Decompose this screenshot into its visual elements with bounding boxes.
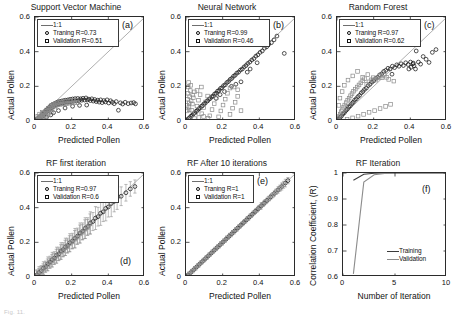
y-tick-label: 0.2 — [8, 237, 30, 246]
y-tick-label: 0.6 — [316, 272, 338, 281]
legend-label: Validation R=1 — [204, 193, 245, 201]
y-tick-label: 0 — [159, 272, 181, 281]
x-axis-label: Predicted Pollen — [336, 135, 446, 145]
legend-label: Traning R=0.97 — [355, 29, 398, 37]
line-marker-icon — [386, 259, 399, 260]
x-axis-label: Number of Iteration — [336, 291, 452, 301]
panel-letter: (b) — [273, 20, 284, 30]
legend-entry: 1:1 — [191, 21, 267, 29]
square-marker-icon — [342, 39, 355, 43]
circle-marker-icon — [40, 31, 53, 35]
one-to-one-line-icon — [191, 25, 204, 26]
y-tick-label: 0.2 — [310, 81, 332, 90]
x-axis-label: Predicted Pollen — [185, 291, 295, 301]
circle-marker-icon — [191, 31, 204, 35]
square-marker-icon — [40, 195, 53, 199]
panel-title: RF After 10 iterations — [151, 158, 303, 168]
x-tick-label: 0.2 — [210, 278, 234, 287]
x-tick-label: 0.4 — [246, 278, 270, 287]
x-tick-label: 0.2 — [59, 278, 83, 287]
panel-title: RF Iteration — [302, 158, 454, 168]
legend-label: 1:1 — [204, 177, 213, 185]
legend-label: Traning R=0.97 — [53, 185, 96, 193]
y-tick-label: 0.9 — [316, 194, 338, 203]
legend-entry: Traning R=1 — [191, 185, 251, 193]
y-tick-label: 0 — [8, 272, 30, 281]
legend-label: Validation R=0.51 — [53, 37, 102, 45]
line-marker-icon — [386, 251, 399, 252]
legend-entry: 1:1 — [342, 21, 418, 29]
y-axis-label: Actual Pollen — [157, 226, 167, 276]
panel-d: RF first iteration Actual Pollen (d) 1:1… — [0, 158, 152, 308]
y-tick-label: 0.6 — [159, 12, 181, 21]
y-tick-label: 0.6 — [310, 12, 332, 21]
x-tick-label: 0.2 — [210, 122, 234, 131]
figure-root: Support Vector Machine Actual Pollen (a)… — [0, 0, 454, 320]
legend-label: Validation — [399, 255, 426, 263]
y-tick-label: 1 — [316, 168, 338, 177]
y-axis-label: Actual Pollen — [6, 226, 16, 276]
legend-c: 1:1Traning R=0.97Validation R=0.62 — [339, 19, 421, 47]
legend-label: Validation R=0.6 — [53, 193, 99, 201]
training-series — [186, 34, 286, 120]
x-tick-label: 0.4 — [397, 122, 421, 131]
panel-f: RF Iteration Correlation Coefficient, (R… — [302, 158, 454, 308]
y-tick-label: 0.8 — [316, 220, 338, 229]
one-to-one-line-icon — [342, 25, 355, 26]
y-tick-label: 0.2 — [8, 81, 30, 90]
y-tick-label: 0.4 — [8, 203, 30, 212]
panel-a: Support Vector Machine Actual Pollen (a)… — [0, 2, 152, 152]
legend-label: 1:1 — [53, 177, 62, 185]
legend-entry: 1:1 — [191, 177, 251, 185]
x-tick-label: 10 — [434, 278, 454, 287]
panel-letter: (f) — [422, 184, 431, 194]
legend-label: Traning R=0.73 — [53, 29, 96, 37]
x-tick-label: 0.6 — [434, 122, 454, 131]
y-tick-label: 0 — [8, 116, 30, 125]
x-axis-label: Predicted Pollen — [185, 135, 295, 145]
legend-e: 1:1Traning R=1Validation R=1 — [188, 175, 254, 203]
y-tick-label: 0.6 — [8, 168, 30, 177]
y-tick-label: 0.4 — [310, 47, 332, 56]
legend-label: Training — [399, 247, 421, 255]
legend-entry: 1:1 — [40, 21, 116, 29]
validation-series — [186, 81, 243, 120]
y-tick-label: 0.7 — [316, 246, 338, 255]
panel-letter: (a) — [122, 20, 133, 30]
panel-letter: (e) — [257, 176, 268, 186]
square-marker-icon — [40, 39, 53, 43]
y-axis-label: Actual Pollen — [6, 70, 16, 120]
panel-title: Support Vector Machine — [0, 2, 152, 12]
legend-label: Validation R=0.46 — [204, 37, 253, 45]
circle-marker-icon — [40, 187, 53, 191]
panel-b: Neural Network Actual Pollen (b) 1:1Tran… — [151, 2, 303, 152]
legend-b: 1:1Traning R=0.99Validation R=0.46 — [188, 19, 270, 47]
x-tick-label: 0.2 — [361, 122, 385, 131]
legend-entry: Validation R=1 — [191, 193, 251, 201]
y-tick-label: 0.4 — [159, 47, 181, 56]
square-marker-icon — [191, 39, 204, 43]
legend-entry: Traning R=0.97 — [342, 29, 418, 37]
y-axis-label: Actual Pollen — [308, 70, 318, 120]
y-tick-label: 0.4 — [159, 203, 181, 212]
x-tick-label: 0.4 — [95, 122, 119, 131]
one-to-one-line-icon — [40, 181, 53, 182]
x-tick-label: 0.4 — [246, 122, 270, 131]
legend-d: 1:1Traning R=0.97Validation R=0.6 — [37, 175, 119, 203]
x-axis-label: Predicted Pollen — [34, 135, 144, 145]
legend-a: 1:1Traning R=0.73Validation R=0.51 — [37, 19, 119, 47]
legend-label: Traning R=0.99 — [204, 29, 247, 37]
legend-label: Validation R=0.62 — [355, 37, 404, 45]
legend-label: 1:1 — [204, 21, 213, 29]
legend-label: 1:1 — [53, 21, 62, 29]
y-tick-label: 0 — [159, 116, 181, 125]
panel-c: Random Forest Actual Pollen (c) 1:1Trani… — [302, 2, 454, 152]
legend-entry: Validation R=0.6 — [40, 193, 116, 201]
panel-letter: (d) — [120, 256, 131, 266]
training-series — [337, 48, 438, 120]
legend-entry: Validation R=0.51 — [40, 37, 116, 45]
legend-f: TrainingValidation — [384, 246, 440, 264]
x-tick-label: 0.4 — [95, 278, 119, 287]
y-tick-label: 0.2 — [159, 81, 181, 90]
x-axis-label: Predicted Pollen — [34, 291, 144, 301]
